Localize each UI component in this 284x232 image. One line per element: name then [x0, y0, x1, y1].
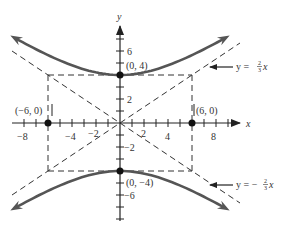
- svg-text:y =: y =: [236, 61, 250, 72]
- point-right: [189, 120, 196, 127]
- x-tick-label: 2: [141, 128, 146, 139]
- x-tick-label: 8: [211, 131, 216, 142]
- hyperbola-chart: y x −8 −4 −2 2 4 8 6 2 −2 −6 (0, 4) (0, …: [0, 0, 284, 232]
- point-left: [45, 120, 52, 127]
- svg-text:2: 2: [264, 178, 267, 184]
- point-bottom-vertex: [117, 168, 124, 175]
- x-tick-label: 4: [165, 131, 170, 142]
- svg-text:2: 2: [258, 60, 261, 66]
- y-tick-label: −6: [124, 190, 135, 201]
- x-tick-label: −2: [88, 128, 99, 139]
- x-tick-label: −8: [17, 131, 28, 142]
- y-axis-label: y: [116, 11, 122, 22]
- point-label-bottom: (0, −4): [126, 177, 153, 189]
- y-tick-label: −2: [124, 142, 135, 153]
- point-top-vertex: [117, 72, 124, 79]
- point-label-top: (0, 4): [126, 60, 148, 72]
- point-label-right: (6, 0): [196, 105, 218, 117]
- svg-text:3: 3: [258, 67, 261, 73]
- svg-text:x: x: [268, 179, 274, 190]
- y-tick-label: 2: [127, 94, 132, 105]
- y-tick-label: 6: [127, 46, 132, 57]
- svg-text:x: x: [262, 61, 268, 72]
- annotation-positive-asymptote: y = 2 3 x: [210, 60, 268, 73]
- svg-text:3: 3: [264, 185, 267, 191]
- point-label-left: (−6, 0): [15, 105, 42, 117]
- annotation-negative-asymptote: y = − 2 3 x: [210, 178, 274, 191]
- x-axis-label: x: [245, 118, 251, 129]
- x-tick-label: −4: [65, 131, 76, 142]
- svg-text:y = −: y = −: [236, 179, 258, 190]
